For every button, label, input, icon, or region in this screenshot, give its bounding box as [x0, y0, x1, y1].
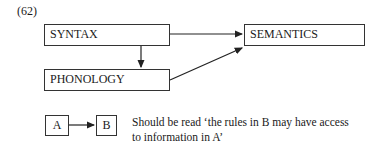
legend-note: Should be read ‘the rules in B may have …	[132, 115, 377, 145]
legend-note-line2: to information in A’	[132, 130, 377, 145]
legend-note-line1: Should be read ‘the rules in B may have …	[132, 115, 377, 130]
legend-a-box: A	[45, 115, 69, 136]
phonology-to-semantics-arrow	[170, 48, 242, 80]
legend-b-box: B	[96, 115, 117, 136]
